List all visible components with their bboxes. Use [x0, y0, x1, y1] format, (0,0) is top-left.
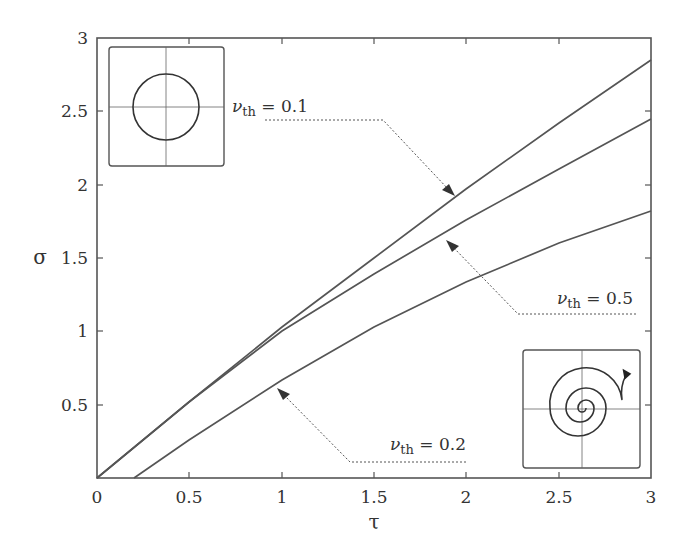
- inset-circle: [109, 47, 224, 166]
- x-tick-label: 0.5: [175, 487, 202, 507]
- annotation-nu-0-1: νth = 0.1: [232, 96, 455, 196]
- y-tick-label: 1.5: [61, 248, 88, 268]
- annotation-nu-0-2: νth = 0.2: [277, 388, 466, 462]
- x-tick-labels: 0 0.5 1 1.5 2 2.5 3: [92, 487, 657, 507]
- y-tick-label: 2.5: [61, 101, 88, 121]
- chart: 0 0.5 1 1.5 2 2.5 3 0.5 1 1.5 2 2.5 3 τ …: [0, 0, 686, 554]
- inset-spiral: [523, 350, 640, 468]
- x-tick-label: 1.5: [360, 487, 387, 507]
- y-tick-labels: 0.5 1 1.5 2 2.5 3: [61, 28, 88, 415]
- annotation-label: νth = 0.1: [232, 96, 308, 119]
- x-axis-label: τ: [368, 510, 379, 534]
- y-axis-label: σ: [33, 245, 47, 269]
- x-tick-label: 2.5: [545, 487, 572, 507]
- y-tick-label: 1: [77, 321, 88, 341]
- annotation-label: νth = 0.5: [557, 288, 633, 311]
- x-tick-label: 2: [461, 487, 472, 507]
- x-tick-label: 1: [277, 487, 288, 507]
- y-tick-label: 3: [77, 28, 88, 48]
- y-tick-label: 0.5: [61, 395, 88, 415]
- y-tick-label: 2: [77, 175, 88, 195]
- arrowhead-icon: [442, 184, 455, 196]
- x-tick-label: 3: [646, 487, 657, 507]
- annotation-label: νth = 0.2: [390, 434, 466, 457]
- x-tick-label: 0: [92, 487, 103, 507]
- arrowhead-icon: [277, 388, 290, 400]
- arrowhead-icon: [446, 240, 459, 252]
